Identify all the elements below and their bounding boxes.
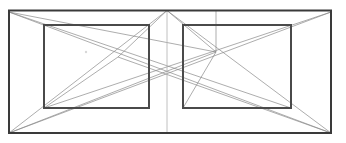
outer-tl-to-center-cross-line <box>9 12 216 52</box>
apex-to-left-node-line <box>118 11 167 58</box>
left-panel-rectangle <box>44 25 149 108</box>
stray-speck-mark <box>85 51 87 53</box>
perspective-drawing-canvas <box>0 0 346 143</box>
left-node-to-left-panel-bl-line <box>44 57 118 108</box>
outer-bl-to-right-panel-tl-node-line <box>9 52 216 133</box>
apex-to-right-node-line <box>167 11 216 53</box>
outer-br-to-apex-line <box>167 11 331 134</box>
perspective-drawing <box>0 0 346 143</box>
right-node-to-right-panel-bl-line <box>183 52 216 108</box>
outer-bl-to-apex-line <box>9 11 167 134</box>
construction-lines-group <box>9 11 331 134</box>
outer-tr-to-left-panel-bl-line <box>44 12 331 108</box>
